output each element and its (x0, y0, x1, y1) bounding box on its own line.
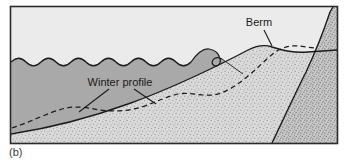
beach-profile-figure: Berm Winter profile (b) (0, 0, 347, 163)
winter-profile-label: Winter profile (88, 76, 153, 88)
berm-label: Berm (246, 16, 272, 28)
beach-profile-diagram: Berm Winter profile (0, 0, 347, 163)
figure-caption: (b) (9, 146, 22, 158)
